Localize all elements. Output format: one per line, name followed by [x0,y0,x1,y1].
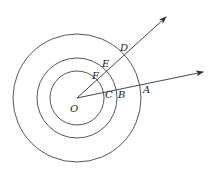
label-O: O [70,103,78,114]
label-D: D [119,42,128,53]
concentric-circles-diagram: O C B A F E D [0,0,214,172]
label-E: E [101,58,110,69]
ray-upper-arrow [77,17,166,98]
label-F: F [91,70,100,81]
label-A: A [142,84,150,95]
label-C: C [105,89,113,100]
label-B: B [117,89,125,100]
